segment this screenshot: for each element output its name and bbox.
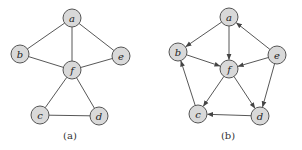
edge-a-e bbox=[79, 24, 114, 51]
edge-a-b bbox=[186, 22, 222, 46]
node-e: e bbox=[112, 47, 130, 65]
edge-e-d bbox=[263, 64, 275, 107]
node-f: f bbox=[220, 60, 238, 78]
node-label: a bbox=[226, 12, 232, 23]
node-f: f bbox=[63, 61, 81, 79]
edge-f-e bbox=[81, 59, 113, 68]
edge-e-f bbox=[238, 58, 268, 67]
node-e: e bbox=[268, 46, 286, 64]
node-label: b bbox=[17, 49, 23, 60]
node-label: c bbox=[37, 110, 43, 121]
edge-b-f bbox=[29, 57, 64, 68]
node-c: c bbox=[189, 105, 207, 123]
node-d: d bbox=[90, 107, 108, 125]
edge-f-d bbox=[234, 77, 255, 109]
node-label: d bbox=[96, 111, 102, 122]
node-a: a bbox=[220, 8, 238, 26]
caption-b: (b) bbox=[221, 130, 235, 141]
graph-figure: abefcd (a) abefcd (b) bbox=[0, 0, 302, 150]
edge-e-a bbox=[236, 23, 270, 50]
directed-graph-b: abefcd (b) bbox=[169, 8, 286, 141]
node-label: b bbox=[175, 47, 181, 58]
edge-c-b bbox=[181, 61, 195, 105]
edge-c-d bbox=[49, 115, 90, 116]
undirected-graph-a: abefcd (a) bbox=[11, 9, 130, 141]
edge-f-d bbox=[77, 78, 95, 108]
caption-a: (a) bbox=[63, 130, 77, 141]
edge-a-b bbox=[27, 23, 64, 49]
edge-d-c bbox=[208, 114, 252, 115]
edge-b-f bbox=[187, 55, 221, 66]
node-c: c bbox=[31, 106, 49, 124]
node-label: d bbox=[257, 111, 263, 122]
node-d: d bbox=[251, 107, 269, 125]
edge-f-c bbox=[203, 76, 224, 106]
node-label: a bbox=[69, 13, 75, 24]
node-b: b bbox=[169, 43, 187, 61]
node-label: e bbox=[274, 50, 280, 61]
node-b: b bbox=[11, 45, 29, 63]
edge-f-c bbox=[45, 77, 67, 107]
node-layer: abefcd bbox=[169, 8, 286, 125]
node-label: c bbox=[195, 109, 201, 120]
node-label: e bbox=[118, 51, 124, 62]
node-a: a bbox=[63, 9, 81, 27]
node-layer: abefcd bbox=[11, 9, 130, 125]
